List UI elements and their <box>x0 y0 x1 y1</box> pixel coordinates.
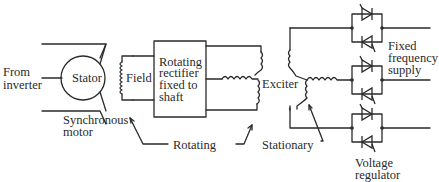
schematic-drawing <box>0 0 439 182</box>
stationary-leader <box>309 105 323 141</box>
voltage-regulator-label-line2: regulator <box>355 169 400 181</box>
excitation-diagram: From inverter Stator Field Rotating rect… <box>0 0 439 182</box>
thyristor-pair-bottom <box>350 104 430 152</box>
exciter-label: Exciter <box>262 78 298 90</box>
field-label: Field <box>126 72 152 84</box>
stator-top-lead <box>100 44 106 64</box>
synchronous-motor-label-line2: motor <box>63 126 93 138</box>
stator-bottom-lead <box>100 92 106 111</box>
stator-label: Stator <box>72 72 102 84</box>
exciter-rotor-winding <box>206 46 263 110</box>
fixed-frequency-label-line3: supply <box>388 64 421 76</box>
rectifier-label-line4: shaft <box>159 91 183 103</box>
stationary-label: Stationary <box>262 139 313 151</box>
rotating-label: Rotating <box>173 139 216 151</box>
from-inverter-label-line2: inverter <box>3 79 42 91</box>
from-inverter-label-line1: From <box>3 66 30 78</box>
